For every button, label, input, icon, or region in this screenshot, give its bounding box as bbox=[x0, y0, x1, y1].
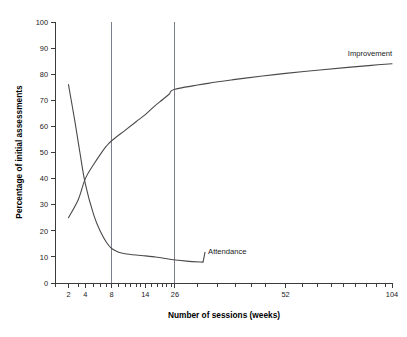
series-line-improvement bbox=[68, 64, 392, 218]
y-tick-label: 90 bbox=[40, 44, 48, 53]
x-tick-label: 2 bbox=[66, 290, 70, 299]
x-tick-label: 4 bbox=[83, 290, 87, 299]
x-tick-label: 8 bbox=[110, 290, 114, 299]
y-tick-label: 70 bbox=[40, 96, 48, 105]
reference-lines-group bbox=[112, 22, 175, 283]
x-axis-tick-labels: 248142652104 bbox=[66, 290, 398, 299]
y-tick-label: 30 bbox=[40, 200, 48, 209]
x-tick-label: 26 bbox=[171, 290, 179, 299]
x-tick-label: 52 bbox=[281, 290, 289, 299]
y-axis-group: 0102030405060708090100 bbox=[36, 18, 55, 288]
y-tick-label: 40 bbox=[40, 174, 48, 183]
y-tick-label: 20 bbox=[40, 227, 48, 236]
series-paths-group bbox=[68, 64, 392, 262]
line-chart: 0102030405060708090100 248142652104 Impr… bbox=[0, 0, 407, 337]
y-tick-label: 10 bbox=[40, 253, 48, 262]
y-tick-label: 50 bbox=[40, 148, 48, 157]
y-tick-label: 0 bbox=[44, 279, 48, 288]
y-axis-tick-labels: 0102030405060708090100 bbox=[36, 18, 48, 288]
y-axis-title: Percentage of initial assessments bbox=[14, 85, 24, 219]
series-label-improvement: Improvement bbox=[348, 49, 393, 58]
y-axis-ticks bbox=[51, 22, 55, 283]
attendance-leader-line bbox=[203, 252, 205, 262]
series-label-attendance: Attendance bbox=[208, 247, 246, 256]
x-axis-group: 248142652104 bbox=[55, 283, 398, 299]
y-tick-label: 100 bbox=[36, 18, 48, 27]
y-tick-label: 60 bbox=[40, 122, 48, 131]
x-axis-minor-ticks bbox=[55, 283, 386, 287]
x-tick-label: 104 bbox=[386, 290, 398, 299]
series-labels-group: ImprovementAttendance bbox=[203, 49, 393, 262]
x-axis-title: Number of sessions (weeks) bbox=[168, 310, 280, 320]
chart-page: 0102030405060708090100 248142652104 Impr… bbox=[0, 0, 407, 337]
x-tick-label: 14 bbox=[141, 290, 149, 299]
y-tick-label: 80 bbox=[40, 70, 48, 79]
